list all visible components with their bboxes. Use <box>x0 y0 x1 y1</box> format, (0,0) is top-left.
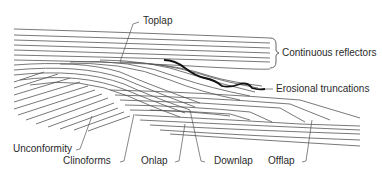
onlap-leader <box>175 124 185 162</box>
toplap-leader <box>120 22 139 62</box>
unconformity-layers <box>14 72 130 131</box>
unconformity-leader <box>76 116 92 150</box>
erosional-truncation-surface <box>164 60 265 89</box>
offlap-leader <box>302 120 312 162</box>
toplap-label: Toplap <box>143 15 172 27</box>
clinoform-layers <box>14 60 262 117</box>
brace <box>270 38 279 68</box>
unconformity-label: Unconformity <box>13 143 72 155</box>
offlap-label: Offlap <box>268 155 295 167</box>
stratigraphy-diagram: Toplap Continuous reflectors Erosional t… <box>0 0 382 176</box>
onlap-label: Onlap <box>141 155 168 167</box>
clinoforms-label: Clinoforms <box>63 155 111 167</box>
erosional-truncations-label: Erosional truncations <box>276 83 369 95</box>
continuous-reflectors-label: Continuous reflectors <box>282 47 377 59</box>
clinoforms-leader <box>120 114 134 162</box>
downlap-label: Downlap <box>214 155 253 167</box>
